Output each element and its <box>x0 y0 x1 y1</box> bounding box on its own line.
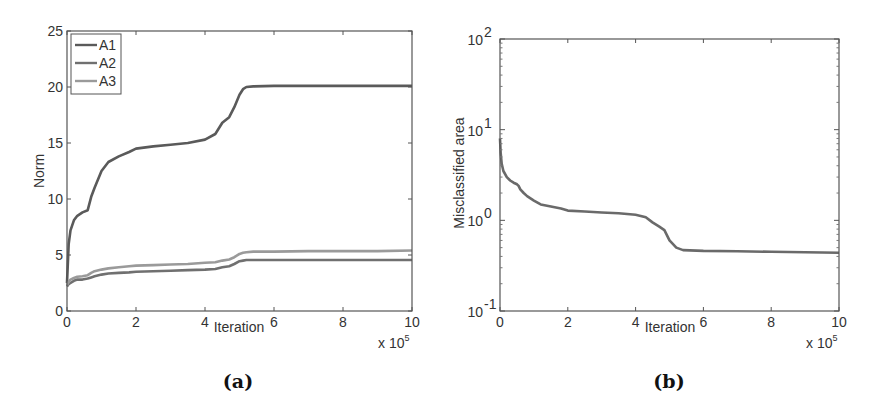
y-tick-label: 10 <box>467 213 483 229</box>
chart-b-xlabel: Iteration <box>645 319 696 335</box>
chart-b-caption: (b) <box>653 370 684 392</box>
chart-b-ticks: 024681010-1100101102 <box>467 24 847 330</box>
y-tick-exponent: 2 <box>484 24 492 40</box>
x-tick-label: 2 <box>564 314 572 330</box>
chart-a-caption: (a) <box>223 370 253 392</box>
chart-a-xlabel: Iteration <box>214 319 265 335</box>
chart-b-misclassified-area: 024681010-1100101102 Iteration Misclassi… <box>451 24 847 392</box>
y-tick-label: 10 <box>47 191 63 207</box>
x-tick-label: 8 <box>339 314 347 330</box>
legend-label-a2: A2 <box>99 55 116 71</box>
x-tick-label: 2 <box>132 314 140 330</box>
chart-a-series <box>67 86 412 287</box>
x-tick-label: 0 <box>63 314 71 330</box>
y-tick-label: 10 <box>467 304 483 320</box>
series-line-a2 <box>67 260 412 286</box>
y-tick-label: 5 <box>55 247 63 263</box>
series-line-misclassified-area <box>500 139 839 253</box>
y-tick-label: 10 <box>467 32 483 48</box>
legend-label-a3: A3 <box>99 73 116 89</box>
x-tick-label: 4 <box>201 314 209 330</box>
x-tick-label: 0 <box>496 314 504 330</box>
chart-b-series <box>500 139 839 253</box>
chart-a-norm: 02468100510152025 Iteration Norm x 105 A… <box>31 23 420 392</box>
chart-a-x-multiplier: x 105 <box>378 333 409 351</box>
x-tick-label: 6 <box>700 314 708 330</box>
y-tick-label: 15 <box>47 135 63 151</box>
x-tick-label: 8 <box>767 314 775 330</box>
figure: 02468100510152025 Iteration Norm x 105 A… <box>0 0 870 415</box>
y-tick-label: 0 <box>55 303 63 319</box>
legend-label-a1: A1 <box>99 37 116 53</box>
y-tick-exponent: 0 <box>484 205 492 221</box>
chart-b-ylabel: Misclassified area <box>451 117 467 228</box>
y-tick-exponent: -1 <box>484 296 497 312</box>
y-tick-label: 20 <box>47 79 63 95</box>
x-tick-label: 4 <box>632 314 640 330</box>
y-tick-label: 25 <box>47 23 63 39</box>
x-tick-label: 10 <box>831 314 847 330</box>
x-tick-label: 10 <box>404 314 420 330</box>
y-tick-label: 10 <box>467 123 483 139</box>
x-tick-label: 6 <box>270 314 278 330</box>
chart-b-axes-frame <box>500 39 839 311</box>
chart-a-ylabel: Norm <box>31 154 47 188</box>
series-line-a3 <box>67 251 412 286</box>
chart-a-legend: A1A2A3 <box>71 34 121 94</box>
y-tick-exponent: 1 <box>484 115 492 131</box>
chart-b-x-multiplier: x 105 <box>806 333 837 351</box>
